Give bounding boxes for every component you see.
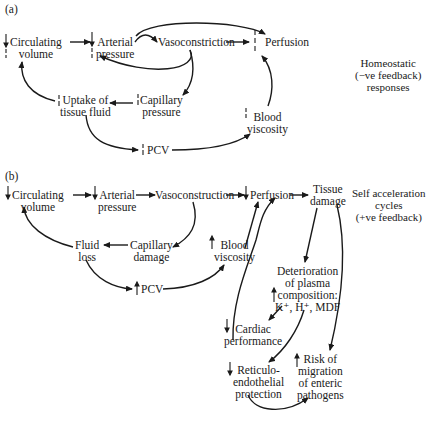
node-b-capillary-damage: Capillary damage: [130, 239, 173, 263]
label-line: Tissue: [310, 183, 346, 195]
label-line: protection: [233, 388, 284, 400]
arrow-b-fluidloss-to-pcv: [86, 260, 132, 289]
label-line: K⁺, H⁺, MDF: [275, 301, 340, 313]
arrow-b-cardiac-to-perfusion: [233, 198, 275, 340]
label-line: cycles: [352, 199, 426, 211]
node-b-arterial-pressure: Arterial pressure: [98, 189, 136, 213]
node-b-perfusion: Perfusion: [250, 189, 294, 201]
indicator-b-circvol-icon: [6, 186, 10, 199]
arrow-b-tissue-to-deterioration: [305, 208, 317, 262]
node-b-reticuloendothelial: Reticulo- endothelial protection: [233, 364, 284, 400]
label-line: (−ve feedback): [355, 69, 421, 81]
arrow-b-vaso-to-capdamage: [173, 202, 195, 247]
arrow-a-viscosity-to-perfusion: [262, 56, 272, 106]
label-line: endothelial: [233, 376, 284, 388]
label-line: migration: [297, 365, 344, 377]
node-b-tissue-damage: Tissue damage: [310, 183, 346, 207]
label-line: pressure: [98, 201, 136, 213]
node-b-cardiac-performance: Cardiac performance: [224, 323, 282, 347]
indicator-b-pcv-icon: [135, 282, 139, 295]
arrow-a-uptake-to-circvol: [22, 62, 55, 101]
label-line: Self acceleration: [352, 187, 426, 199]
label-line: Blood: [247, 111, 288, 123]
panel-b-tag: (b): [5, 170, 18, 182]
label-line: Circulating: [10, 36, 62, 48]
node-b-deterioration: Deterioration of plasma composition: K⁺,…: [275, 265, 340, 313]
label-line: Capillary: [130, 239, 173, 251]
indicator-b-perfusion-icon: [244, 186, 248, 199]
node-a-vasoconstriction: Vasoconstriction: [158, 36, 235, 48]
arrow-b-pcv-to-viscosity: [163, 265, 224, 289]
label-line: (+ve feedback): [352, 211, 426, 223]
indicator-b-artpress-icon: [93, 186, 97, 199]
label-line: responses: [355, 81, 421, 93]
label-line: Blood: [214, 239, 255, 251]
label-line: Deterioration: [275, 265, 340, 277]
node-a-uptake-tissue-fluid: Uptake of tissue fluid: [60, 94, 111, 118]
indicator-a-artpress-icon: [90, 32, 94, 58]
label-line: viscosity: [214, 251, 255, 263]
label-line: volume: [12, 201, 64, 213]
label-line: Arterial: [96, 36, 134, 48]
label-line: performance: [224, 335, 282, 347]
label-line: pressure: [140, 106, 183, 118]
label-line: damage: [310, 195, 346, 207]
label-line: volume: [10, 48, 62, 60]
arrow-a-vaso-to-cappress: [183, 50, 193, 95]
label-line: viscosity: [247, 123, 288, 135]
arrow-a-uptake-to-pcv: [86, 115, 138, 150]
node-b-risk-migration: Risk of migration of enteric pathogens: [297, 353, 344, 401]
label-line: Risk of: [297, 353, 344, 365]
label-line: of enteric: [297, 377, 344, 389]
arrow-a-artpress-to-perfusion-top: [136, 23, 265, 36]
label-line: Homeostatic: [355, 57, 421, 69]
indicator-a-circvol-icon: [4, 34, 8, 58]
node-b-pcv: PCV: [141, 283, 163, 295]
label-line: Arterial: [98, 189, 136, 201]
node-a-perfusion: Perfusion: [265, 36, 309, 48]
label-line: pressure: [96, 48, 134, 60]
arrow-a-artpress-to-vaso: [135, 35, 157, 42]
label-line: tissue fluid: [60, 106, 111, 118]
label-line: Fluid: [75, 239, 99, 251]
node-b-blood-viscosity: Blood viscosity: [214, 239, 255, 263]
label-line: composition:: [275, 289, 340, 301]
node-a-blood-viscosity: Blood viscosity: [247, 111, 288, 135]
node-a-capillary-pressure: Capillary pressure: [140, 94, 183, 118]
panel-a-tag: (a): [5, 3, 18, 15]
indicator-b-reticulo-icon: [228, 362, 232, 375]
label-line: loss: [75, 251, 99, 263]
label-line: Uptake of: [60, 94, 111, 106]
node-a-pcv: PCV: [147, 144, 169, 156]
label-line: Circulating: [12, 189, 64, 201]
arrow-a-pcv-to-viscosity: [172, 134, 250, 150]
panel-a-side-label: Homeostatic (−ve feedback) responses: [355, 57, 421, 93]
node-b-circulating-volume: Circulating volume: [12, 189, 64, 213]
node-a-circulating-volume: Circulating volume: [10, 36, 62, 60]
label-line: Cardiac: [224, 323, 282, 335]
node-a-arterial-pressure: Arterial pressure: [96, 36, 134, 60]
node-b-fluid-loss: Fluid loss: [75, 239, 99, 263]
label-line: Capillary: [140, 94, 183, 106]
label-line: Reticulo-: [233, 364, 284, 376]
label-line: of plasma: [275, 277, 340, 289]
label-line: pathogens: [297, 389, 344, 401]
label-line: damage: [130, 251, 173, 263]
node-b-vasoconstruction: Vasoconstruction: [155, 189, 234, 201]
panel-b-side-label: Self acceleration cycles (+ve feedback): [352, 187, 426, 223]
arrow-b-fluidloss-to-circvol: [24, 207, 73, 247]
